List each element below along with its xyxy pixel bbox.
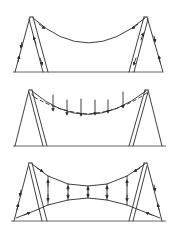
arrow-icon bbox=[159, 57, 160, 62]
upper-cable bbox=[32, 164, 145, 186]
arrow-icon bbox=[135, 168, 140, 171]
arrow-icon bbox=[24, 213, 29, 215]
left-a-frame bbox=[15, 17, 48, 72]
arrow-icon bbox=[147, 213, 152, 215]
arrow-icon bbox=[37, 168, 42, 171]
arrow-icon bbox=[158, 205, 159, 210]
deflected-cable bbox=[34, 92, 148, 114]
panel-3 bbox=[11, 163, 166, 221]
arrow-icon bbox=[134, 58, 136, 64]
right-a-frame bbox=[129, 90, 162, 146]
load-arrows bbox=[53, 92, 123, 115]
panel-1 bbox=[13, 17, 163, 72]
arrow-icon bbox=[18, 57, 19, 62]
panel-2 bbox=[13, 90, 166, 146]
cable bbox=[32, 91, 146, 115]
left-a-frame bbox=[15, 90, 47, 146]
cable-structure-diagram bbox=[0, 0, 176, 236]
cable bbox=[33, 18, 145, 43]
arrow-icon bbox=[133, 24, 138, 28]
arrow-icon bbox=[17, 205, 18, 210]
right-a-frame bbox=[129, 17, 163, 72]
